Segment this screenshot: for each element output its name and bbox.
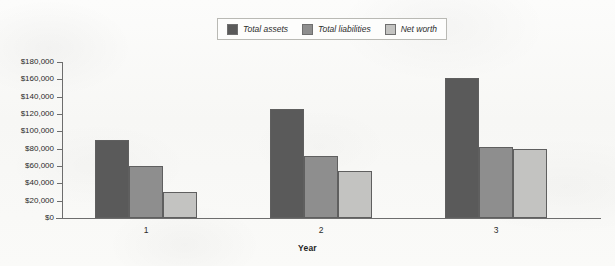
plot-area: $180,000$160,000$140,000$120,000$100,000… [62, 62, 592, 218]
y-axis-line [62, 62, 63, 219]
chart-page: Total assets Total liabilities Net worth… [0, 0, 615, 266]
legend-entry-total-liabilities: Total liabilities [302, 24, 371, 35]
y-axis-tick-label: $160,000 [21, 75, 54, 83]
legend-label-total-liabilities: Total liabilities [318, 25, 371, 34]
x-axis-label-2: 2 [319, 226, 324, 235]
legend-swatch-net-worth [385, 24, 396, 35]
legend-label-total-assets: Total assets [243, 25, 288, 34]
bar-total-liabilities-year-1[interactable] [129, 166, 163, 218]
bar-total-liabilities-year-3[interactable] [479, 147, 513, 218]
y-axis-tick [57, 79, 62, 80]
x-axis-title: Year [0, 243, 615, 253]
legend-label-net-worth: Net worth [401, 25, 437, 34]
y-axis-tick-label: $100,000 [21, 127, 54, 135]
y-axis-tick-label: $20,000 [25, 197, 54, 205]
y-axis-tick-label: $180,000 [21, 58, 54, 66]
y-axis-tick [57, 166, 62, 167]
bar-net-worth-year-3[interactable] [513, 149, 547, 218]
legend-swatch-total-assets [227, 24, 238, 35]
legend-entry-net-worth: Net worth [385, 24, 437, 35]
y-axis-tick [57, 114, 62, 115]
y-axis-tick-label: $80,000 [25, 145, 54, 153]
y-axis-tick [57, 97, 62, 98]
bar-total-assets-year-2[interactable] [270, 109, 304, 218]
chart-legend: Total assets Total liabilities Net worth [217, 18, 447, 40]
y-axis-tick [57, 218, 62, 219]
y-axis-tick-label: $40,000 [25, 179, 54, 187]
y-axis-tick [57, 201, 62, 202]
x-axis-label-1: 1 [144, 226, 149, 235]
bar-total-liabilities-year-2[interactable] [304, 156, 338, 218]
bar-net-worth-year-1[interactable] [163, 192, 197, 218]
bar-total-assets-year-3[interactable] [445, 78, 479, 218]
bar-group-year-1 [95, 62, 197, 218]
y-axis-tick-label: $140,000 [21, 93, 54, 101]
bar-net-worth-year-2[interactable] [338, 171, 372, 218]
y-axis-tick-label: $60,000 [25, 162, 54, 170]
y-axis-tick [57, 131, 62, 132]
bar-total-assets-year-1[interactable] [95, 140, 129, 218]
y-axis-tick-label: $0 [45, 214, 54, 222]
x-axis-line [56, 218, 601, 219]
legend-swatch-total-liabilities [302, 24, 313, 35]
y-axis-tick [57, 62, 62, 63]
y-axis-tick [57, 149, 62, 150]
legend-entry-total-assets: Total assets [227, 24, 288, 35]
x-axis-label-3: 3 [494, 226, 499, 235]
bar-group-year-3 [445, 62, 547, 218]
y-axis-tick [57, 183, 62, 184]
bar-group-year-2 [270, 62, 372, 218]
y-axis-tick-label: $120,000 [21, 110, 54, 118]
